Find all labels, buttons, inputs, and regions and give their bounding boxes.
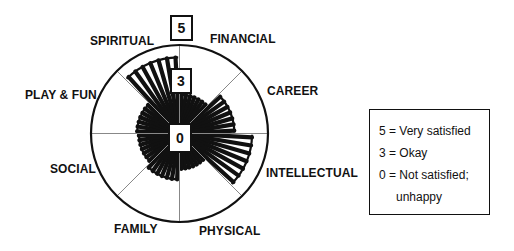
- label-social: SOCIAL: [50, 162, 96, 176]
- legend-not-satisfied: 0 = Not satisfied;: [379, 164, 489, 186]
- label-financial: FINANCIAL: [210, 32, 276, 46]
- scale-marker-3: 3: [170, 68, 192, 94]
- scale-marker-5: 5: [170, 15, 193, 41]
- legend-unhappy: unhappy: [379, 186, 489, 208]
- label-family: FAMILY: [114, 222, 158, 236]
- label-physical: PHYSICAL: [199, 224, 260, 238]
- scale-marker-0: 0: [168, 123, 192, 153]
- legend-box: 5 = Very satisfied 3 = Okay 0 = Not sati…: [369, 109, 490, 215]
- label-career: CAREER: [267, 84, 318, 98]
- legend-okay: 3 = Okay: [379, 142, 489, 164]
- label-spiritual: SPIRITUAL: [90, 34, 154, 48]
- label-intellectual: INTELLECTUAL: [266, 166, 358, 180]
- label-play-fun: PLAY & FUN: [25, 88, 97, 102]
- legend-very-satisfied: 5 = Very satisfied: [379, 120, 489, 142]
